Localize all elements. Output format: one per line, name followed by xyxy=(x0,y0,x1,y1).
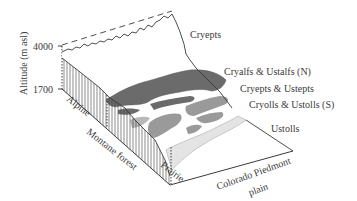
soil-label-cryolls-ustolls: Cryolls & Ustolls (S) xyxy=(249,99,334,111)
soil-label-cryepts: Cryepts xyxy=(190,29,221,40)
zone-label-plain: plain xyxy=(247,181,270,198)
soil-label-cryepts-ustepts: Cryepts & Ustepts xyxy=(240,83,314,94)
y-axis-label: Altitude (m asl) xyxy=(18,32,30,95)
soil-label-cryalfs-ustalfs: Cryalfs & Ustalfs (N) xyxy=(224,66,311,78)
soil-label-ustolls: Ustolls xyxy=(271,123,299,134)
y-tick-1700: 1700 xyxy=(33,84,53,95)
block-diagram: Altitude (m asl) 4000 1700 Alpine Monta xyxy=(0,0,357,201)
y-tick-4000: 4000 xyxy=(33,41,53,52)
